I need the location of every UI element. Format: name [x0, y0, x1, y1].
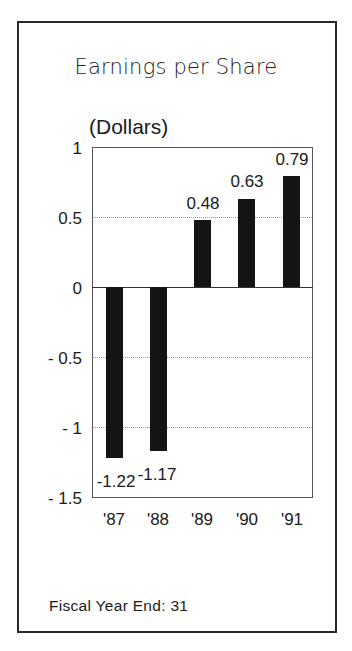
- gridline-minus-1: [93, 427, 312, 428]
- fiscal-year-footnote: Fiscal Year End: 31: [49, 597, 188, 615]
- value-label-89: 0.48: [178, 195, 228, 212]
- value-label-91: 0.79: [267, 151, 317, 168]
- y-tick-minus-1: - 1: [32, 420, 82, 437]
- gridline-minus-0.5: [93, 357, 312, 358]
- value-label-90: 0.63: [222, 173, 272, 190]
- x-tick-91: '91: [270, 510, 314, 530]
- zero-line: [92, 287, 313, 288]
- y-tick-1: 1: [32, 140, 82, 157]
- y-axis-unit-label: (Dollars): [89, 115, 168, 139]
- y-tick-0.5: 0.5: [32, 210, 82, 227]
- y-tick-minus-0.5: - 0.5: [32, 350, 82, 367]
- value-label-88: -1.17: [132, 466, 182, 483]
- x-tick-90: '90: [225, 510, 269, 530]
- x-tick-89: '89: [180, 510, 224, 530]
- bar-90: [238, 199, 255, 287]
- gridline-0.5: [93, 217, 312, 218]
- y-tick-0: 0: [32, 280, 82, 297]
- bar-87: [106, 287, 123, 458]
- chart-title: Earnings per Share: [0, 55, 352, 79]
- bar-91: [283, 176, 300, 287]
- x-tick-88: '88: [136, 510, 180, 530]
- x-tick-87: '87: [92, 510, 136, 530]
- y-tick-minus-1.5: - 1.5: [32, 490, 82, 507]
- bar-88: [150, 287, 167, 451]
- bar-89: [194, 220, 211, 287]
